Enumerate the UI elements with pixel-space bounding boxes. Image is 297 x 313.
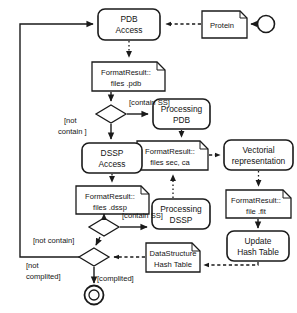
edge-decision-ss-dssp-to-decision-complited — [96, 237, 100, 245]
dssp-access-label-line1: DSSP — [101, 148, 124, 158]
guard-contain-ss-pdb: [contain SS] — [129, 98, 170, 107]
decision-complited-diamond — [79, 248, 109, 266]
edge-decision-complited-loop-to-pdb-access — [20, 24, 93, 257]
artifact-format-result-dssp[interactable]: FormatResult:: files .dssp — [76, 186, 149, 214]
guard-contain-ss-dssp: [contain SS] — [122, 211, 163, 220]
format-pdb-label-line2: files .pdb — [111, 79, 141, 88]
activity-dssp-access[interactable]: DSSP Access — [82, 143, 142, 173]
decision-complited[interactable] — [79, 248, 109, 266]
format-flt-label-line2: file .flt — [246, 207, 267, 216]
artifact-data-structure-hash-table[interactable]: DataStructure Hash Table — [146, 243, 200, 272]
artifact-format-result-flt[interactable]: FormatResult:: file .flt — [226, 190, 291, 218]
data-structure-label-line1: DataStructure — [150, 249, 197, 258]
activity-vectorial-representation[interactable]: Vectorial representation — [224, 140, 293, 170]
format-sec-ca-label-line2: files sec, ca — [150, 158, 190, 167]
format-sec-ca-label-line1: FormatResult:: — [145, 147, 195, 156]
artifact-protein[interactable]: Protein — [202, 11, 247, 38]
dssp-access-label-line2: Access — [99, 159, 126, 169]
vectorial-label-line1: Vectorial — [242, 145, 274, 155]
guard-not-complited-line1: [not — [26, 261, 40, 270]
activity-pdb-access[interactable]: PDB Access — [98, 9, 160, 40]
decision-ss-pdb-diamond — [96, 105, 126, 123]
initial-node-circle — [258, 16, 275, 33]
update-hash-label-line2: Hash Table — [237, 247, 279, 257]
format-dssp-label-line1: FormatResult:: — [85, 192, 135, 201]
pdb-access-label-line1: PDB — [120, 14, 138, 24]
guard-not-contain-pdb-line2: contain ] — [58, 127, 87, 136]
processing-dssp-label-line1: Processing — [160, 204, 202, 214]
format-flt-label-line1: FormatResult:: — [231, 196, 281, 205]
edge-update-hash-to-data-structure — [204, 262, 258, 265]
activity-update-hash-table[interactable]: Update Hash Table — [227, 231, 289, 261]
decision-contain-ss-dssp[interactable] — [89, 218, 119, 236]
guard-not-contain-dssp: [not contain] — [33, 236, 74, 245]
processing-dssp-label-line2: DSSP — [170, 215, 193, 225]
final-node-inner-circle — [89, 290, 99, 300]
vectorial-label-line2: representation — [232, 156, 286, 166]
final-node[interactable] — [85, 286, 104, 305]
start-node[interactable] — [258, 16, 275, 33]
pdb-access-label-line2: Access — [116, 25, 143, 35]
processing-pdb-label-line2: PDB — [173, 115, 191, 125]
format-pdb-label-line1: FormatResult:: — [101, 68, 151, 77]
update-hash-label-line1: Update — [244, 236, 271, 246]
data-structure-label-line2: Hash Table — [154, 260, 192, 269]
guard-complited: [complited] — [97, 274, 134, 283]
protein-label: Protein — [210, 21, 234, 30]
guard-not-complited-line2: complited] — [26, 272, 61, 281]
artifact-format-result-pdb[interactable]: FormatResult:: files .pdb — [92, 62, 165, 91]
guard-not-contain-pdb-line1: [not — [64, 116, 78, 125]
decision-ss-dssp-diamond — [89, 218, 119, 236]
activity-diagram-canvas: Protein PDB Access FormatResult:: files … — [0, 0, 297, 313]
decision-contain-ss-pdb[interactable] — [96, 105, 126, 123]
artifact-format-result-sec-ca[interactable]: FormatResult:: files sec, ca — [137, 141, 208, 170]
